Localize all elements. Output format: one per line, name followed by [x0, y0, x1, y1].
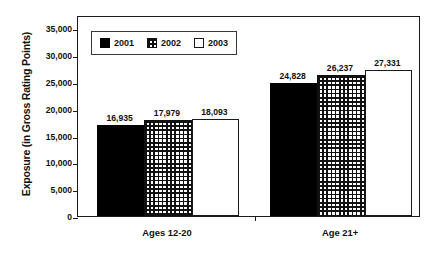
y-axis-tick-label: 10,000 — [34, 159, 72, 168]
bar-value-label: 24,828 — [280, 72, 306, 81]
legend-item-label: 2003 — [208, 39, 228, 48]
y-axis-tick-labels: 05,00010,00015,00020,00025,00030,00035,0… — [34, 16, 72, 217]
bar-value-label: 18,093 — [201, 108, 227, 117]
legend-item-label: 2002 — [161, 39, 181, 48]
legend-item-label: 2001 — [114, 39, 134, 48]
solid-black-swatch — [100, 38, 110, 48]
bar-value-label: 16,935 — [107, 114, 133, 123]
x-axis-tick-mark — [255, 216, 256, 221]
y-axis-tick-label: 5,000 — [34, 186, 72, 195]
bar-2003-age-21- — [365, 70, 412, 216]
bar-value-label: 26,237 — [327, 64, 353, 73]
legend-item-2002: 2002 — [147, 38, 181, 48]
y-axis-tick-label: 25,000 — [34, 79, 72, 88]
x-axis-category-label: Ages 12-20 — [142, 228, 192, 237]
y-axis-title: Exposure (in Gross Rating Points) — [20, 14, 32, 214]
white-swatch — [194, 38, 204, 48]
bar-value-label: 27,331 — [374, 59, 400, 68]
x-axis-category-label: Age 21+ — [322, 228, 358, 237]
checkered-swatch — [147, 38, 157, 48]
y-axis-tick-label: 35,000 — [34, 25, 72, 34]
legend-item-2003: 2003 — [194, 38, 228, 48]
bar-2001-age-21- — [270, 83, 317, 216]
y-axis-tick-label: 20,000 — [34, 106, 72, 115]
legend-item-2001: 2001 — [100, 38, 134, 48]
bar-2002-ages-12-20 — [144, 120, 191, 216]
bar-chart: Exposure (in Gross Rating Points) 05,000… — [0, 0, 445, 255]
bar-value-label: 17,979 — [154, 109, 180, 118]
bar-2003-ages-12-20 — [192, 119, 239, 216]
y-axis-tick-mark — [73, 218, 78, 219]
y-axis-tick-label: 0 — [34, 213, 72, 222]
y-axis-tick-label: 30,000 — [34, 52, 72, 61]
chart-legend: 200120022003 — [91, 31, 237, 55]
y-axis-tick-label: 15,000 — [34, 132, 72, 141]
bar-2001-ages-12-20 — [97, 125, 144, 216]
bar-2002-age-21- — [317, 75, 364, 216]
